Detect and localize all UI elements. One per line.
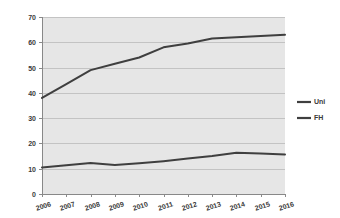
- y-tick-label: 60: [28, 39, 36, 46]
- y-tick-label: 50: [28, 65, 36, 72]
- y-tick-label: 20: [28, 140, 36, 147]
- y-tick-label: 10: [28, 166, 36, 173]
- y-tick-label: 0: [32, 191, 36, 198]
- plot-area-background: [42, 17, 285, 194]
- line-chart: 010203040506070 200620072008200920102011…: [0, 0, 340, 218]
- y-tick-label: 40: [28, 90, 36, 97]
- legend-label-uni: Uni: [314, 98, 325, 105]
- y-tick-label: 70: [28, 14, 36, 21]
- chart-container: 010203040506070 200620072008200920102011…: [0, 0, 340, 218]
- y-tick-label: 30: [28, 115, 36, 122]
- legend-label-fh: FH: [314, 114, 323, 121]
